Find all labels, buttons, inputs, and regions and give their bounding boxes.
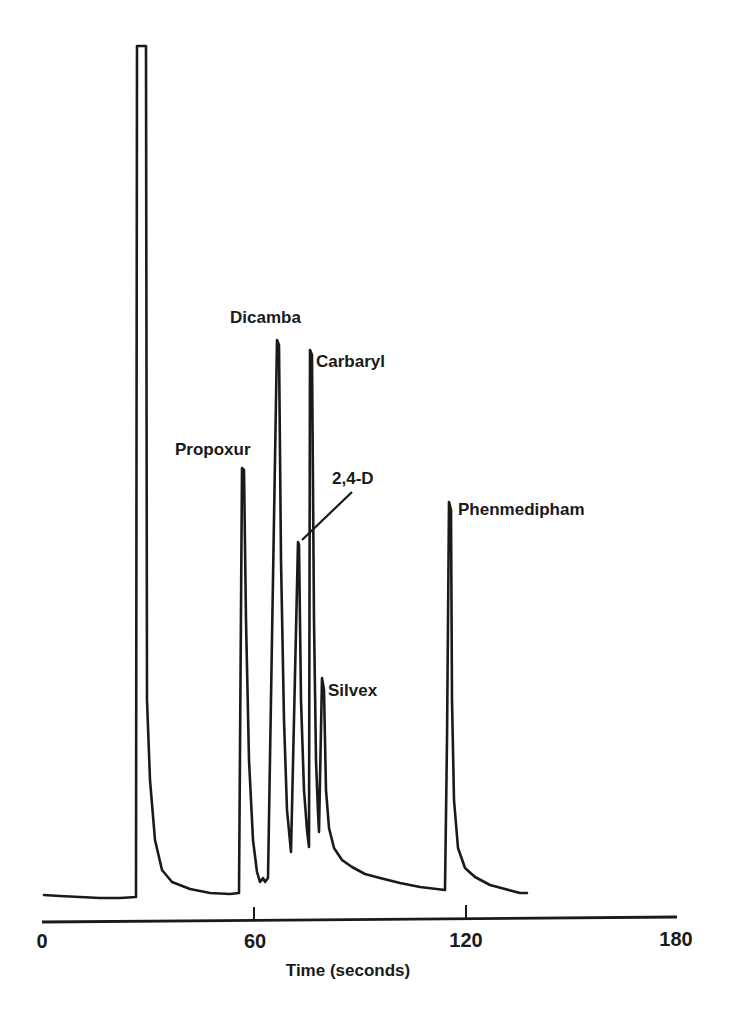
peak-label-phenmedipham: Phenmedipham bbox=[458, 500, 585, 520]
x-tick-label-60: 60 bbox=[244, 930, 266, 953]
chromatogram-plot bbox=[0, 0, 737, 1014]
x-tick-label-120: 120 bbox=[449, 929, 482, 952]
x-tick-label-180: 180 bbox=[659, 928, 692, 951]
peak-label-silvex: Silvex bbox=[328, 681, 377, 701]
peak-label-dicamba: Dicamba bbox=[230, 308, 301, 328]
peak-label-propoxur: Propoxur bbox=[175, 440, 251, 460]
x-axis-line bbox=[42, 917, 677, 922]
chromatogram-trace bbox=[44, 46, 527, 898]
x-axis-title: Time (seconds) bbox=[286, 961, 410, 981]
peak-label-carbaryl: Carbaryl bbox=[316, 352, 385, 372]
chromatogram-chart: Propoxur Dicamba Carbaryl 2,4-D Silvex P… bbox=[0, 0, 737, 1014]
peak-label-2-4-d: 2,4-D bbox=[332, 469, 374, 489]
x-tick-label-0: 0 bbox=[36, 930, 47, 953]
